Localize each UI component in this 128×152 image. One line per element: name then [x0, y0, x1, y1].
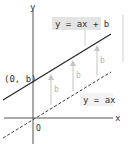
intercept-label: (0, b) [4, 74, 37, 84]
linear-shift-diagram: y = ax + b y = ax y x O (0, b) b b b [0, 0, 128, 152]
shift-arrow-1-label: b [54, 85, 59, 94]
y-axis-label: y [30, 2, 36, 12]
equation-shifted-label: y = ax + b [55, 19, 109, 29]
shift-arrow-2-label: b [76, 71, 81, 80]
shift-arrow-3-label: b [100, 56, 105, 65]
x-axis-label: x [115, 113, 121, 123]
equation-base-label: y = ax [83, 95, 116, 105]
origin-label: O [36, 124, 41, 133]
